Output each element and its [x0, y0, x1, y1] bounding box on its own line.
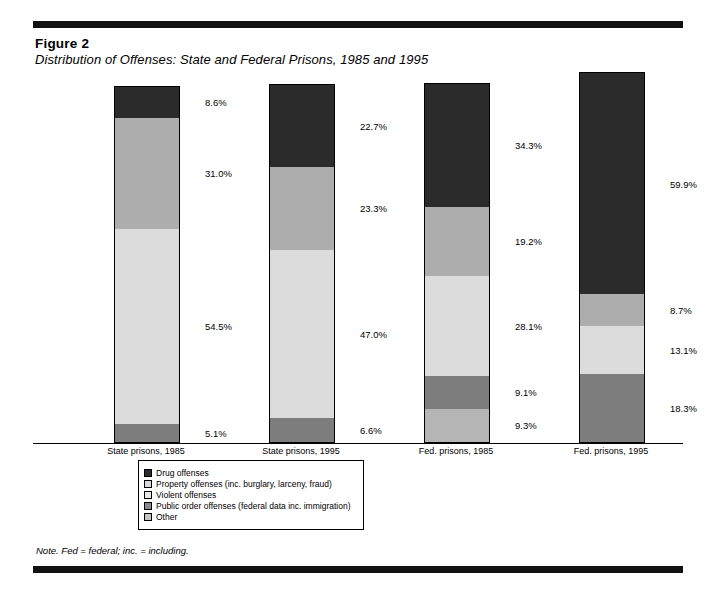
baseline-axis [33, 443, 683, 444]
bottom-rule [33, 566, 683, 573]
chart-plot-area: 8.6%31.0%54.5%5.1%State prisons, 198522.… [33, 70, 683, 444]
legend-rows: Drug offensesProperty offenses (inc. bur… [144, 469, 357, 522]
category-label: Fed. prisons, 1995 [531, 446, 691, 456]
bar-segment[interactable]: 31.0% [115, 118, 179, 229]
legend-item[interactable]: Property offenses (inc. burglary, larcen… [144, 480, 357, 489]
stacked-bar[interactable]: 59.9%8.7%13.1%18.3% [579, 72, 645, 443]
bar-group: 34.3%19.2%28.1%9.1%9.3%Fed. prisons, 198… [376, 69, 536, 443]
legend-item[interactable]: Drug offenses [144, 469, 357, 478]
segment-value-label: 13.1% [670, 345, 697, 356]
segment-value-label: 59.9% [670, 178, 697, 189]
segment-value-label: 8.7% [670, 305, 692, 316]
chart-legend: Drug offensesProperty offenses (inc. bur… [138, 460, 364, 530]
bar-segment[interactable]: 18.3% [580, 374, 644, 442]
legend-swatch-icon [144, 480, 152, 488]
bar-segment[interactable]: 22.7% [270, 85, 334, 166]
figure-title: Distribution of Offenses: State and Fede… [35, 52, 428, 67]
figure-number: Figure 2 [35, 36, 89, 51]
stacked-bar[interactable]: 22.7%23.3%47.0%6.6% [269, 84, 335, 443]
bar-group: 22.7%23.3%47.0%6.6%State prisons, 1995 [221, 69, 381, 443]
legend-item-label: Other [156, 513, 177, 522]
bar-segment[interactable]: 54.5% [115, 229, 179, 424]
legend-swatch-icon [144, 513, 152, 521]
legend-item[interactable]: Other [144, 513, 357, 522]
legend-item-label: Violent offenses [156, 491, 216, 500]
bar-segment[interactable]: 8.6% [115, 87, 179, 118]
bar-segment[interactable]: 9.3% [425, 409, 489, 442]
top-rule [33, 21, 683, 28]
category-label: State prisons, 1995 [221, 446, 381, 456]
bar-group: 8.6%31.0%54.5%5.1%State prisons, 1985 [66, 69, 226, 443]
segment-value-label: 18.3% [670, 403, 697, 414]
bar-segment[interactable]: 9.1% [425, 376, 489, 409]
legend-item[interactable]: Violent offenses [144, 491, 357, 500]
legend-swatch-icon [144, 502, 152, 510]
legend-item-label: Property offenses (inc. burglary, larcen… [156, 480, 332, 489]
legend-item[interactable]: Public order offenses (federal data inc.… [144, 502, 357, 511]
bar-segment[interactable]: 59.9% [580, 73, 644, 294]
bar-segment[interactable]: 19.2% [425, 207, 489, 276]
legend-swatch-icon [144, 491, 152, 499]
legend-swatch-icon [144, 469, 152, 477]
legend-item-label: Public order offenses (federal data inc.… [156, 502, 351, 511]
bar-segment[interactable]: 47.0% [270, 250, 334, 418]
bar-segment[interactable]: 5.1% [115, 424, 179, 442]
figure-note: Note. Fed = federal; inc. = including. [36, 545, 189, 556]
figure-page: Figure 2 Distribution of Offenses: State… [0, 0, 708, 596]
bar-segment[interactable]: 28.1% [425, 276, 489, 377]
bar-segment[interactable]: 13.1% [580, 326, 644, 374]
stacked-bar[interactable]: 34.3%19.2%28.1%9.1%9.3% [424, 83, 490, 443]
category-label: Fed. prisons, 1985 [376, 446, 536, 456]
legend-item-label: Drug offenses [156, 469, 209, 478]
category-label: State prisons, 1985 [66, 446, 226, 456]
bar-segment[interactable]: 34.3% [425, 84, 489, 207]
bar-segment[interactable]: 6.6% [270, 418, 334, 442]
bar-segment[interactable]: 8.7% [580, 294, 644, 326]
stacked-bar[interactable]: 8.6%31.0%54.5%5.1% [114, 86, 180, 443]
bar-segment[interactable]: 23.3% [270, 167, 334, 250]
bar-group: 59.9%8.7%13.1%18.3%Fed. prisons, 1995 [531, 69, 691, 443]
